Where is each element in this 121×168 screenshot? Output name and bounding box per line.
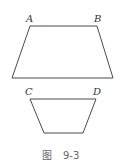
- figure-canvas: A B C D 图 9-3: [0, 0, 121, 168]
- caption-prefix: 图: [42, 150, 52, 161]
- vertex-label-c: C: [25, 86, 33, 97]
- vertex-label-d: D: [92, 86, 101, 97]
- caption-number: 9-3: [63, 150, 79, 161]
- upper-trapezoid: [12, 26, 113, 78]
- vertex-label-a: A: [25, 13, 33, 24]
- vertex-label-b: B: [93, 13, 101, 24]
- lower-trapezoid: [30, 99, 96, 133]
